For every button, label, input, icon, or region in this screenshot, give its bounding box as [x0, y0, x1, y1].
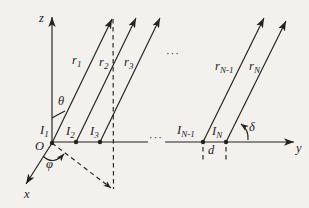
element-dot-IN-1: [201, 140, 205, 144]
ray-r1-label: r1: [72, 53, 81, 69]
ellipsis-axis: ···: [149, 131, 163, 143]
ray-r1-line: [52, 19, 112, 143]
delta-arc: [241, 124, 248, 140]
delta-label: δ: [249, 120, 255, 134]
ray-r3-line: [100, 18, 160, 142]
theta-arc: [52, 111, 65, 118]
ray-r2-line: [76, 18, 136, 142]
theta-label: θ: [58, 94, 64, 108]
origin-label: O: [35, 139, 44, 153]
spacing-label: d: [208, 143, 215, 157]
ray-rN-label: rN: [249, 59, 261, 75]
y-axis-label: y: [294, 141, 302, 155]
projection-vertical-dashed: [113, 19, 114, 189]
projection-diagonal-dashed: [52, 143, 111, 188]
element-IN-1-label: IN-1: [176, 123, 195, 139]
ray-rN-line: [226, 21, 286, 142]
element-I1-label: I1: [39, 123, 49, 139]
z-axis-label: z: [38, 11, 44, 25]
ray-rN-1-label: rN-1: [215, 59, 233, 75]
element-dot-I3: [98, 140, 102, 144]
ray-r3-label: r3: [124, 55, 134, 71]
element-dot-IN: [224, 140, 228, 144]
array-geometry-diagram: zyxOθφδd······r1r2r3rN-1rNI1I2I3IN-1IN: [0, 0, 309, 208]
element-I2-label: I2: [65, 124, 75, 140]
x-axis-label: x: [23, 187, 30, 201]
element-I3-label: I3: [89, 124, 99, 140]
element-IN-label: IN: [211, 124, 223, 140]
ellipsis-top: ···: [166, 47, 180, 59]
figure: zyxOθφδd······r1r2r3rN-1rNI1I2I3IN-1IN: [0, 0, 309, 208]
element-dot-I1: [50, 141, 54, 145]
ray-r2-label: r2: [99, 55, 109, 71]
phi-label: φ: [46, 157, 53, 171]
element-dot-I2: [74, 140, 78, 144]
